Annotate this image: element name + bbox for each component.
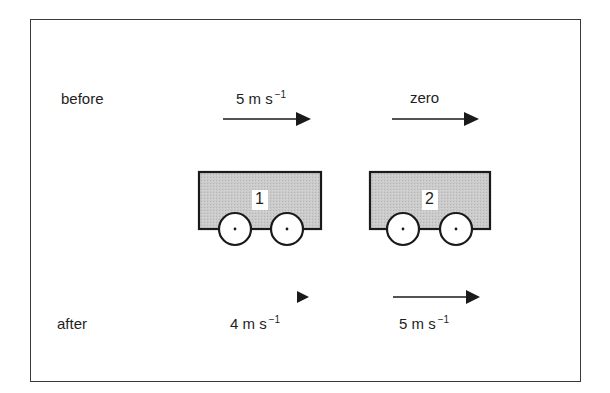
- trolley-2-number: 2: [425, 190, 434, 208]
- trolley-2-before-arrow-icon: [392, 112, 479, 126]
- trolley-1-number: 1: [255, 190, 264, 208]
- trolley-1-after-arrow-icon: [297, 291, 309, 303]
- collision-diagram: [0, 0, 610, 393]
- trolley-2: [370, 172, 490, 245]
- trolley-1: [199, 172, 321, 245]
- trolley-2-after-arrow-icon: [393, 290, 480, 304]
- trolley-1-before-arrow-icon: [223, 112, 311, 126]
